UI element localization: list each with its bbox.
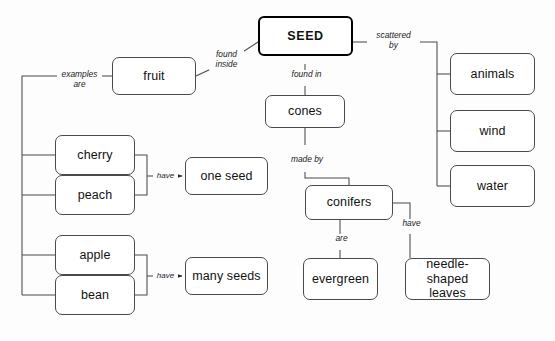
edge-cones-conifers-b <box>305 172 349 185</box>
node-needle-shaped-leaves[interactable]: needle-shaped leaves <box>405 258 490 300</box>
node-wind[interactable]: wind <box>450 110 535 152</box>
node-seed[interactable]: SEED <box>258 16 353 56</box>
node-many-seeds[interactable]: many seeds <box>185 257 268 295</box>
edge-label-found-in: found in <box>282 70 331 80</box>
edge-conifers-leaves-a <box>393 203 410 219</box>
edge-label-have-leaves: have <box>397 219 426 229</box>
node-animals[interactable]: animals <box>450 53 535 95</box>
edge-label-have-many-seeds: have <box>153 271 178 280</box>
edge-label-are: are <box>327 234 356 244</box>
edge-group-many-seeds <box>135 255 147 295</box>
node-one-seed[interactable]: one seed <box>185 157 268 195</box>
concept-map-canvas: SEED fruit cones animals wind water cher… <box>0 0 555 341</box>
node-cones[interactable]: cones <box>265 95 345 128</box>
edge-label-made-by: made by <box>283 155 331 165</box>
node-water[interactable]: water <box>450 165 535 207</box>
node-bean[interactable]: bean <box>55 275 135 315</box>
node-evergreen[interactable]: evergreen <box>303 258 378 300</box>
node-peach[interactable]: peach <box>55 175 135 215</box>
edge-label-have-one-seed: have <box>153 171 178 180</box>
edge-label-examples-are: examples are <box>57 70 102 90</box>
node-cherry[interactable]: cherry <box>55 135 135 175</box>
edge-label-scattered-by: scattered by <box>367 31 420 51</box>
node-conifers[interactable]: conifers <box>305 185 393 220</box>
node-apple[interactable]: apple <box>55 235 135 275</box>
node-fruit[interactable]: fruit <box>112 57 196 95</box>
edge-seed-scatter-b <box>414 42 437 186</box>
edge-label-found-inside: found inside <box>209 50 244 70</box>
edge-group-one-seed <box>135 155 147 195</box>
